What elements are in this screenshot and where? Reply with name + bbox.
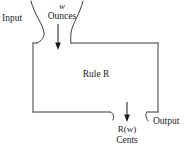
hopper-right-curve [71, 1, 83, 43]
input-arrow [55, 24, 61, 50]
output-expression-label: R(w) [118, 124, 137, 135]
function-machine-diagram: Input w Ounces Rule R R(w) Cents Output [0, 0, 190, 155]
chute-left-curve [110, 112, 114, 120]
output-arrow [124, 102, 130, 122]
output-unit-label: Cents [116, 135, 138, 146]
input-arrow-head [55, 43, 61, 51]
rule-label: Rule R [83, 69, 110, 80]
rule-name-text: R [103, 69, 109, 79]
input-label: Input [2, 13, 22, 24]
output-label: Output [153, 116, 179, 127]
output-paren-close-text: ) [133, 124, 136, 134]
chute-right-curve [146, 112, 148, 121]
output-arrow-head [124, 115, 130, 123]
hopper-left-curve [31, 1, 44, 43]
rule-prefix-text: Rule [83, 69, 103, 79]
input-hopper [31, 1, 83, 43]
input-unit-label: Ounces [48, 11, 77, 22]
